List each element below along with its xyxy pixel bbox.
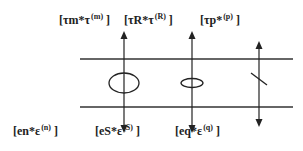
top-label-2: [τR*τ(R)] [124, 13, 173, 27]
bottom-label-1-sup: (n) [41, 123, 51, 132]
top-label-1-sup: (m) [91, 12, 103, 21]
bottom-label-1-close: ] [54, 124, 58, 138]
arrow-up-1-icon [121, 31, 128, 39]
top-label-3-close: ] [236, 13, 240, 27]
top-label-3-base: [τp* [200, 13, 222, 27]
arrow-up-2-icon [189, 31, 196, 39]
diagram-canvas: [τm*τ(m)] [τR*τ(R)] [τp*(p)] [en*ε(n)] [… [0, 0, 303, 151]
arrow-up-3-icon [256, 41, 263, 49]
bottom-label-2-base: [eS*ε [95, 124, 122, 138]
bottom-label-1: [en*ε(n)] [13, 124, 58, 138]
bottom-label-3-base: [eq*ε [175, 124, 202, 138]
arrow-down-3-icon [256, 119, 263, 127]
top-label-3: [τp*(p)] [200, 13, 240, 27]
top-label-1: [τm*τ(m)] [59, 13, 110, 27]
top-label-2-sup: (R) [155, 12, 166, 21]
top-label-1-close: ] [106, 13, 110, 27]
top-label-3-sup: (p) [223, 12, 233, 21]
top-label-2-base: [τR*τ [124, 13, 154, 27]
bottom-label-2: [eS*ε(S)] [95, 124, 140, 138]
bottom-label-3-close: ] [216, 124, 220, 138]
bottom-label-1-base: [en*ε [13, 124, 40, 138]
bottom-label-3-sup: (q) [203, 123, 213, 132]
bottom-label-3: [eq*ε(q)] [175, 124, 220, 138]
top-label-2-close: ] [169, 13, 173, 27]
bottom-label-2-close: ] [136, 124, 140, 138]
bottom-label-2-sup: (S) [123, 123, 133, 132]
top-label-1-base: [τm*τ [59, 13, 90, 27]
